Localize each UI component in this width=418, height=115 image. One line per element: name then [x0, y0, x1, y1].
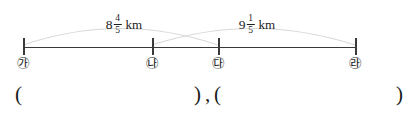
number-line	[23, 47, 355, 49]
measure-1-fraction: 4 5	[114, 14, 122, 36]
point-label-ra: ㉱	[349, 58, 362, 71]
measure-2-numerator: 1	[247, 14, 254, 24]
measure-1-numerator: 4	[114, 14, 121, 24]
tick-mark-ra	[355, 38, 357, 55]
answer-row: ( ) , ( )	[0, 84, 418, 115]
measure-label-ga-da: 8 4 5 km	[106, 14, 142, 36]
answer-2-close-paren: )	[396, 84, 403, 105]
tick-mark-na	[152, 38, 154, 55]
measure-1-denominator: 5	[114, 26, 121, 36]
measure-2-denominator: 5	[247, 26, 254, 36]
answer-1-open-paren: (	[15, 84, 22, 105]
point-label-na: ㉯	[146, 58, 159, 71]
tick-mark-ga	[23, 38, 25, 55]
measure-2-whole: 9	[239, 18, 246, 32]
tick-mark-da	[218, 38, 220, 55]
number-line-figure: 8 4 5 km 9 1 5 km ㉮ ㉯ ㉰ ㉱ ( ) , ( )	[0, 0, 418, 115]
answer-separator-comma: ,	[205, 84, 210, 105]
answer-1-close-paren: )	[194, 84, 201, 105]
point-label-ga: ㉮	[17, 58, 30, 71]
answer-2-open-paren: (	[214, 84, 221, 105]
measure-label-na-ra: 9 1 5 km	[239, 14, 275, 36]
measure-1-unit: km	[126, 18, 143, 31]
measure-2-fraction: 1 5	[247, 14, 255, 36]
point-label-da: ㉰	[212, 58, 225, 71]
measure-2-unit: km	[259, 18, 276, 31]
measure-1-whole: 8	[106, 18, 113, 32]
